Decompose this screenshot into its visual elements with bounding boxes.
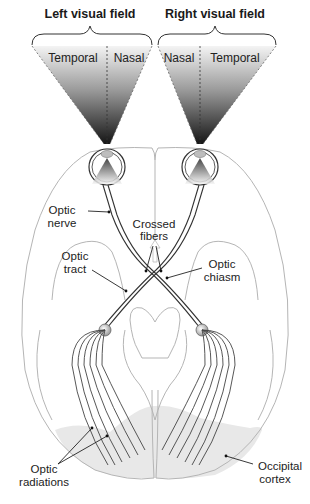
optic-tract-label: Optic — [62, 250, 89, 262]
optic-nerve-label: Optic — [49, 204, 76, 216]
crossed-fibers-label: Crossed — [133, 218, 176, 230]
visual-pathway-diagram: Left visual field Right visual field Tem… — [0, 0, 310, 504]
right-eye — [182, 149, 218, 185]
right-nasal-label: Nasal — [164, 51, 195, 65]
right-visual-field-title: Right visual field — [165, 7, 265, 21]
left-eye — [89, 149, 125, 185]
left-field-brace — [32, 26, 152, 45]
crossed-fibers-label-2: fibers — [140, 230, 168, 242]
brain-outline — [22, 148, 289, 480]
optic-chiasm-label: Optic — [209, 258, 236, 270]
left-nasal-label: Nasal — [114, 51, 145, 65]
optic-nerve-label-2: nerve — [48, 217, 77, 229]
left-visual-field-title: Left visual field — [45, 7, 136, 21]
optic-chiasm-label-2: chiasm — [204, 271, 240, 283]
right-temporal-label: Temporal — [210, 51, 259, 65]
left-temporal-label: Temporal — [48, 51, 97, 65]
optic-tract-label-2: tract — [64, 263, 87, 275]
optic-radiations-label: Optic — [31, 463, 58, 475]
optic-radiations-label-2: radiations — [19, 476, 69, 488]
occipital-cortex-label: Occipital — [258, 460, 302, 472]
occipital-cortex-label-2: cortex — [259, 473, 291, 485]
right-field-brace — [158, 26, 276, 45]
